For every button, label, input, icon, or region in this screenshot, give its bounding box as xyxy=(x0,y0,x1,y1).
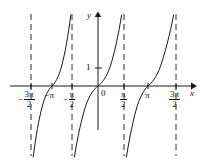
x-tick-label-zero: 0 xyxy=(101,89,106,98)
plot-canvas xyxy=(0,0,203,168)
x-tick-label-pi: π xyxy=(145,91,150,100)
fraction-neg-3pi-2: 3π2 xyxy=(24,90,35,109)
y-axis-label: y xyxy=(87,11,91,20)
fraction-denominator: 2 xyxy=(69,100,76,109)
tangent-graph-figure: y x 1 0 −3π2 −π −π2 π2 π 3π2 xyxy=(0,0,203,168)
fraction-denominator: 2 xyxy=(120,100,127,109)
x-tick-label-pi-2: π2 xyxy=(120,90,127,109)
x-axis-label: x xyxy=(190,89,194,98)
x-tick-label-neg-pi: −π xyxy=(44,91,54,100)
pi-symbol: π xyxy=(50,90,55,100)
y-axis-arrow-icon xyxy=(95,12,102,18)
x-tick-label-3pi-2: 3π2 xyxy=(169,90,180,109)
x-tick-label-neg-3pi-2: −3π2 xyxy=(18,90,35,109)
fraction-denominator: 2 xyxy=(169,100,180,109)
y-tick-label-one: 1 xyxy=(86,63,91,72)
fraction-pi-2: π2 xyxy=(120,90,127,109)
y-axis xyxy=(95,12,102,131)
fraction-3pi-2: 3π2 xyxy=(169,90,180,109)
fraction-neg-pi-2: π2 xyxy=(69,90,76,109)
x-tick-label-neg-pi-2: −π2 xyxy=(63,90,75,109)
fraction-denominator: 2 xyxy=(24,100,35,109)
pi-symbol: π xyxy=(145,90,150,100)
